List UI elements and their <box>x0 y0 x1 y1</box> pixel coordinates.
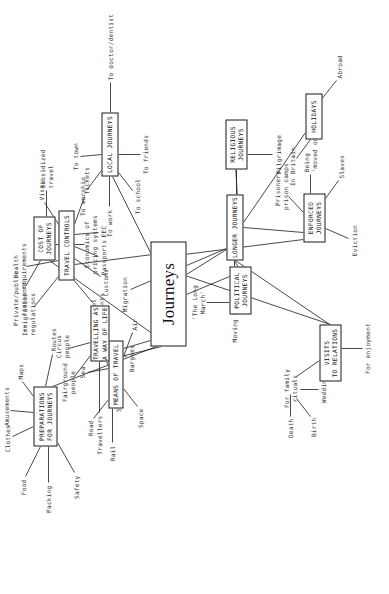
leaf-eviction: Eviction <box>350 224 358 255</box>
leaf-amusements: Amusements <box>2 386 10 425</box>
leaf-migration: Migration <box>120 276 128 311</box>
leaf-to-worship: To worship <box>78 176 86 215</box>
leaf-slaves: Slaves <box>337 154 345 178</box>
leaf-customs: Customs <box>101 268 109 295</box>
leaf-food: Food <box>19 479 27 495</box>
leaf-road: Road <box>86 420 94 436</box>
leaf-the-long-march: 'The Long March' <box>190 284 206 319</box>
node-visits-to-relations[interactable]: VISITS TO RELATIONS <box>319 324 341 381</box>
edge-enforced-slaves <box>325 180 338 198</box>
edge-prep-safety <box>57 442 74 472</box>
edge-longer-enforced <box>243 227 303 232</box>
node-preparations-for-journeys[interactable]: PREPARATIONS FOR JOURNEYS <box>33 386 57 446</box>
leaf-air: Air <box>130 318 138 330</box>
node-travel-controls[interactable]: TRAVEL CONTROLS <box>58 210 74 280</box>
mind-map-canvas: Journeys PREPARATIONS FOR JOURNEYS MEANS… <box>0 0 389 594</box>
leaf-for-enjoyment: For enjoyment <box>363 323 371 374</box>
edge-local-school <box>118 172 132 190</box>
leaf-to-school: To school <box>133 178 141 213</box>
leaf-to-doctor-dentist: To doctor/dentist <box>106 13 114 80</box>
leaf-subsidized-travel: Subsidized travel <box>38 149 54 188</box>
leaf-sea: Sea <box>78 366 86 378</box>
node-means-of-travel[interactable]: MEANS OF TRAVEL <box>108 340 123 408</box>
edge-means-sea <box>87 368 108 372</box>
edge-prep-clothes <box>12 426 33 436</box>
leaf-maps: Maps <box>16 363 24 379</box>
edge-enforced-eviction <box>325 228 348 238</box>
leaf-pilgrimage: Pilgrimage <box>274 134 282 173</box>
leaf-to-town: To town <box>71 142 79 169</box>
leaf-for-family-rituals: For family rituals <box>282 368 298 407</box>
edge-prep-amusements <box>10 410 33 412</box>
leaf-to-work: To work <box>105 209 113 236</box>
leaf-economics-of-pricing-systems: Economics of pricing systems <box>82 215 98 274</box>
edge-prep-maps <box>22 381 33 396</box>
leaf-travellers: Travellers <box>95 415 103 454</box>
leaf-rail: Rail <box>108 445 116 461</box>
edge-prep-routes <box>45 354 52 386</box>
node-travelling-as-a-way-of-life[interactable]: TRAVELLING AS A WAY OF LIFE <box>90 305 109 361</box>
edge-center-longer <box>186 249 226 274</box>
leaf-in-britain: In Britain <box>288 146 296 185</box>
node-longer-journeys[interactable]: LONGER JOURNEYS <box>226 194 243 260</box>
leaf-to-friends: To friends <box>141 134 149 173</box>
leaf-space: Space <box>136 408 144 428</box>
leaf-packing: Packing <box>44 485 52 512</box>
leaf-bargees: Bargees <box>127 344 135 371</box>
leaf-safety: Safety <box>72 475 80 499</box>
leaf-abroad: Abroad <box>335 54 343 78</box>
leaf-birth: Birth <box>309 417 317 437</box>
leaf-circus-people: Circus people <box>54 334 70 358</box>
edge-tc-immigration <box>34 276 58 306</box>
edge-visits-rituals <box>296 360 319 376</box>
leaf-clothes: Clothes <box>3 424 11 451</box>
edge-prep-food <box>25 446 40 476</box>
edge-local-town <box>80 154 101 156</box>
node-religious-journeys[interactable]: RELIGIOUS JOURNEYS <box>225 119 247 169</box>
node-cost-of-journeys[interactable]: COST OF JOURNEYS <box>33 216 55 260</box>
leaf-private-public-transport: Private/public transport <box>11 271 27 326</box>
node-local-journeys[interactable]: LOCAL JOURNEYS <box>101 112 118 176</box>
leaf-death: Death <box>286 418 294 438</box>
node-holidays[interactable]: HOLIDAYS <box>305 93 322 139</box>
node-enforced-journeys[interactable]: ENFORCED JOURNEYS <box>303 193 325 242</box>
edge-wol-circus <box>68 342 90 348</box>
leaf-fairground-people: Fairground people <box>60 362 76 401</box>
diagram-rotation-wrapper: Journeys PREPARATIONS FOR JOURNEYS MEANS… <box>0 0 389 594</box>
edge-means-space <box>123 388 137 406</box>
node-political-journeys[interactable]: POLITICAL JOURNEYS <box>229 266 251 314</box>
edge-enforced-prisoners <box>288 196 303 212</box>
node-journeys[interactable]: Journeys <box>150 241 186 346</box>
